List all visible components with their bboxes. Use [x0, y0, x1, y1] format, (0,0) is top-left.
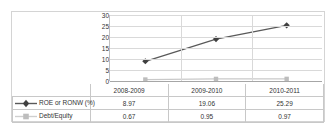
gridline	[110, 48, 322, 49]
table-column-header: 2008-2009	[90, 84, 168, 97]
x-axis-line	[110, 81, 322, 82]
legend-label: ROE or RONW (%)	[39, 99, 95, 107]
table-cell: 0.97	[246, 110, 324, 123]
table-cell: 0.67	[90, 110, 168, 123]
table-cell: 8.97	[90, 97, 168, 110]
table-column-header: 2009-2010	[168, 84, 246, 97]
table-cell: 0.95	[168, 110, 246, 123]
table-cell: 25.29	[246, 97, 324, 110]
table-header-row: 2008-2009 2009-2010 2010-2011	[13, 84, 324, 97]
plot-area	[109, 15, 322, 81]
gridline	[110, 15, 322, 16]
table-corner-cell	[13, 84, 91, 97]
y-axis-tick-label: 25	[90, 23, 109, 30]
legend-entry-roe[interactable]: ROE or RONW (%)	[13, 97, 91, 110]
y-axis-tick-label: 5	[90, 67, 109, 74]
table-row: Debt/Equity 0.67 0.95 0.97	[13, 110, 324, 123]
plot-region: 051015202530	[12, 12, 324, 84]
chart-widget: 051015202530 2008-2009 2009-2010 2010-20…	[11, 11, 325, 122]
y-axis-tick-label: 20	[90, 34, 109, 41]
gridline	[110, 37, 322, 38]
category-separator	[181, 15, 182, 81]
table-cell: 19.06	[168, 97, 246, 110]
table-row: ROE or RONW (%) 8.97 19.06 25.29	[13, 97, 324, 110]
legend-label: Debt/Equity	[39, 112, 73, 120]
y-axis-tick-label: 15	[90, 45, 109, 52]
legend-entry-debt-equity[interactable]: Debt/Equity	[13, 110, 91, 123]
table-column-header: 2010-2011	[246, 84, 324, 97]
gridline	[110, 59, 322, 60]
chart-data-table: 2008-2009 2009-2010 2010-2011 ROE or RON…	[12, 84, 324, 123]
y-axis-tick-labels: 051015202530	[90, 15, 109, 81]
gridline	[110, 26, 322, 27]
category-separator	[252, 15, 253, 81]
diamond-marker-icon	[15, 99, 37, 108]
square-marker-icon	[15, 112, 37, 121]
y-axis-tick-label: 30	[90, 12, 109, 19]
y-axis-tick-label: 10	[90, 56, 109, 63]
gridline	[110, 70, 322, 71]
series-line	[145, 25, 286, 61]
